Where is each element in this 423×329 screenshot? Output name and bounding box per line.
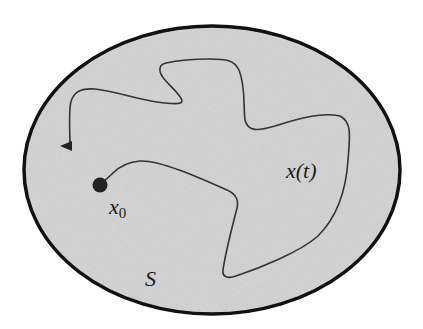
diagram-svg <box>0 0 423 329</box>
start-point-dot <box>93 178 108 193</box>
region-label: S <box>145 268 156 290</box>
diagram-canvas: x(t) x0 S <box>0 0 423 329</box>
grain-texture <box>26 28 398 312</box>
start-point-label-subscript: 0 <box>119 205 127 221</box>
start-point-label-base: x <box>109 194 119 219</box>
trajectory-label: x(t) <box>286 160 317 182</box>
start-point-label: x0 <box>109 196 126 221</box>
